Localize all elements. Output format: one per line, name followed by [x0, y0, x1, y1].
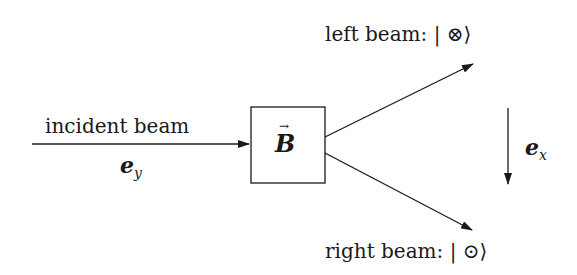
right-beam-arrow — [325, 153, 472, 230]
odot-icon: ⊙ — [463, 239, 480, 263]
ex-symbol: e — [525, 134, 539, 160]
field-symbol: → B — [275, 132, 295, 156]
incident-beam-label: incident beam — [45, 116, 189, 136]
left-beam-text: left beam: — [325, 22, 434, 46]
ey-direction-label: ey — [120, 154, 142, 177]
left-ket-close: ⟩ — [464, 22, 472, 46]
ex-axis-label: ex — [525, 136, 547, 159]
left-beam-arrow — [325, 64, 473, 137]
right-beam-text: right beam: — [325, 239, 450, 263]
left-beam-label: left beam: | ⊗⟩ — [325, 24, 471, 44]
ex-subscript: x — [539, 147, 547, 163]
ey-symbol: e — [120, 152, 134, 178]
b-letter: B — [275, 129, 295, 158]
vector-arrow-mark: → — [279, 120, 289, 132]
left-ket-open: | — [434, 22, 447, 46]
right-ket-close: ⟩ — [480, 239, 488, 263]
b-vector: → B — [275, 129, 295, 158]
ey-subscript: y — [134, 165, 142, 181]
otimes-icon: ⊗ — [447, 22, 464, 46]
right-ket-open: | — [450, 239, 463, 263]
right-beam-label: right beam: | ⊙⟩ — [325, 241, 487, 261]
